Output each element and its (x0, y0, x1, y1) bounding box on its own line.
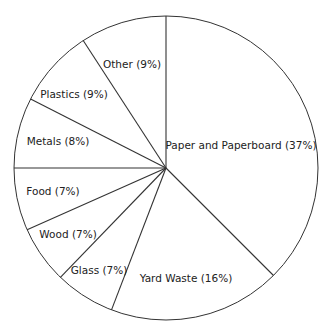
label-plastics: Plastics (9%) (40, 88, 108, 100)
label-wood: Wood (7%) (39, 228, 96, 240)
label-yard-waste: Yard Waste (16%) (139, 272, 233, 284)
label-paper: Paper and Paperboard (37%) (165, 139, 316, 151)
label-glass: Glass (7%) (71, 264, 128, 276)
label-metals: Metals (8%) (27, 135, 90, 147)
pie-chart: Paper and Paperboard (37%) Yard Waste (1… (0, 0, 328, 335)
label-food: Food (7%) (26, 185, 79, 197)
label-other: Other (9%) (103, 58, 161, 70)
